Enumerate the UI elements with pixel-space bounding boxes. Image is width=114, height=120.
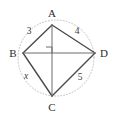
geometry-figure: A B C D 3 4 x 5 [0, 0, 114, 120]
geometry-canvas: A B C D 3 4 x 5 [0, 0, 114, 120]
right-angle-icon [46, 47, 52, 53]
side-label-ab: 3 [27, 26, 32, 36]
vertex-label-a: A [48, 7, 56, 19]
vertex-label-c: C [48, 101, 55, 113]
side-ad [52, 25, 95, 53]
side-cd [52, 53, 95, 96]
vertex-label-d: D [100, 47, 108, 59]
side-label-bc: x [23, 71, 29, 81]
side-label-ad: 4 [75, 26, 80, 36]
side-label-cd: 5 [78, 72, 83, 82]
vertex-label-b: B [9, 47, 16, 59]
